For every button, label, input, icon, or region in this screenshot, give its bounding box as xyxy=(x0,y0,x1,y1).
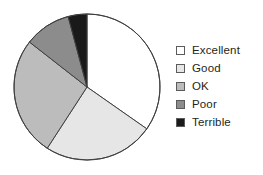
pie-chart-figure: ExcellentGoodOKPoorTerrible xyxy=(0,0,263,175)
legend-item-good: Good xyxy=(176,59,260,77)
legend-label-ok: OK xyxy=(192,80,209,92)
legend-item-ok: OK xyxy=(176,77,260,95)
legend-label-excellent: Excellent xyxy=(192,44,240,56)
pie-slice-group xyxy=(14,14,160,160)
legend-label-terrible: Terrible xyxy=(192,116,231,128)
pie-chart-svg xyxy=(13,13,161,161)
legend-swatch-ok xyxy=(176,82,185,91)
legend-label-poor: Poor xyxy=(192,98,217,110)
legend-swatch-poor xyxy=(176,100,185,109)
legend-item-poor: Poor xyxy=(176,95,260,113)
chart-legend: ExcellentGoodOKPoorTerrible xyxy=(176,41,260,131)
legend-label-good: Good xyxy=(192,62,221,74)
legend-item-excellent: Excellent xyxy=(176,41,260,59)
pie-chart-plot-area xyxy=(13,13,161,161)
legend-swatch-terrible xyxy=(176,118,185,127)
legend-swatch-good xyxy=(176,64,185,73)
legend-item-terrible: Terrible xyxy=(176,113,260,131)
legend-swatch-excellent xyxy=(176,46,185,55)
